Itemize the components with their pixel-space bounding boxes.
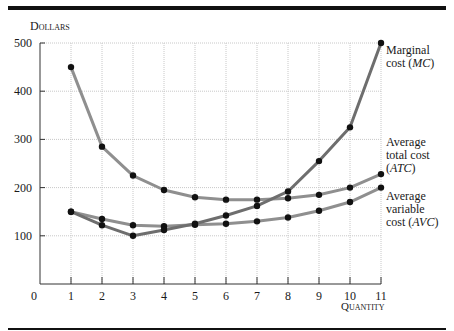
atc-point [130,172,136,178]
mc-point [378,40,384,46]
x-tick-label: 6 [223,289,229,303]
x-tick-label: 8 [285,289,291,303]
legend-atc: Average total cost (ATC) [386,136,430,175]
atc-point [285,195,291,201]
x-tick-label: 9 [316,289,322,303]
top-rule [8,6,446,10]
atc-point [254,196,260,202]
bottom-rule [8,328,446,330]
y-tick-label: 100 [14,229,32,243]
mc-point [254,203,260,209]
avc-point [347,199,353,205]
mc-point [130,233,136,239]
atc-point [99,143,105,149]
avc-point [223,221,229,227]
avc-point [316,208,322,214]
atc-point [223,196,229,202]
avc-point [378,184,384,190]
avc-point [130,222,136,228]
avc-point [99,216,105,222]
atc-point [68,64,74,70]
mc-point [192,221,198,227]
x-tick-label: 2 [99,289,105,303]
mc-point [68,209,74,215]
mc-point [223,212,229,218]
mc-point [285,188,291,194]
legend-avc: Average variable cost (AVC) [386,190,438,229]
atc-point [316,192,322,198]
x-axis-title: Quantity [341,300,385,313]
avc-point [254,218,260,224]
mc-point [347,124,353,130]
x-tick-label: 5 [192,289,198,303]
legend-atc-line3: (ATC) [386,162,430,175]
y-tick-label: 200 [14,181,32,195]
y-tick-label: 300 [14,132,32,146]
mc-point [316,158,322,164]
legend-mc: Marginal cost (MC) [386,44,434,70]
y-axis-title: Dollars [30,20,70,33]
mc-point [99,222,105,228]
x-tick-label: 7 [254,289,260,303]
avc-point [285,214,291,220]
atc-point [192,194,198,200]
x-tick-label: 4 [161,289,167,303]
y-tick-label: 400 [14,84,32,98]
mc-point [161,227,167,233]
atc-point [347,184,353,190]
x-tick-label: 0 [31,289,37,303]
x-tick-label: 1 [68,289,74,303]
x-tick-label: 3 [130,289,136,303]
y-tick-label: 500 [14,36,32,50]
atc-point [161,187,167,193]
legend-avc-line3: cost (AVC) [386,216,438,229]
atc-point [378,171,384,177]
legend-mc-line2: cost (MC) [386,57,434,70]
